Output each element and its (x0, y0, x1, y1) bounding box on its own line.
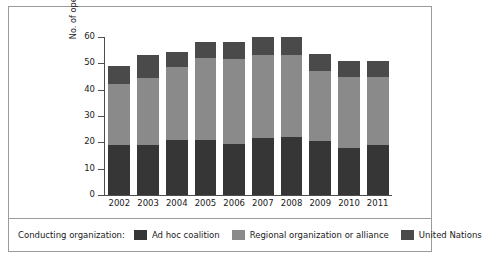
chart-legend: Conducting organization: Ad hoc coalitio… (9, 219, 431, 251)
bar-segment (195, 42, 217, 58)
stacked-bar[interactable] (137, 55, 159, 195)
y-axis-title: No. of operations (69, 0, 78, 59)
y-tick: 40 (98, 90, 104, 91)
plot-area: No. of operations 6050403020100 20022003… (9, 7, 431, 218)
bar-segment (137, 55, 159, 77)
legend-label: Regional organization or alliance (250, 230, 389, 240)
bar-segment (309, 71, 331, 141)
legend-swatch (232, 230, 245, 240)
bar-segment (338, 77, 360, 148)
stacked-bar[interactable] (309, 54, 331, 195)
legend-item[interactable]: Ad hoc coalition (134, 230, 220, 240)
x-tick-label: 2008 (277, 198, 306, 208)
legend-items: Ad hoc coalitionRegional organization or… (134, 230, 486, 240)
bar-slot (363, 37, 392, 195)
x-tick-label: 2003 (134, 198, 163, 208)
bar-slot (105, 37, 134, 195)
y-tick: 10 (98, 169, 104, 170)
x-tick-label: 2004 (162, 198, 191, 208)
bar-segment (223, 59, 245, 143)
stacked-bar[interactable] (195, 42, 217, 195)
bar-segment (281, 37, 303, 55)
y-tick-label: 0 (90, 189, 95, 199)
chart-figure: No. of operations 6050403020100 20022003… (8, 6, 432, 252)
bar-segment (309, 54, 331, 71)
stacked-bar[interactable] (108, 66, 130, 195)
x-tick-label: 2010 (335, 198, 364, 208)
bar-slot (277, 37, 306, 195)
bar-slot (335, 37, 364, 195)
y-tick-label: 20 (84, 136, 95, 146)
stacked-bar[interactable] (281, 37, 303, 195)
bar-segment (367, 145, 389, 195)
legend-title: Conducting organization: (18, 230, 125, 240)
bar-segment (367, 61, 389, 77)
x-tick-label: 2007 (249, 198, 278, 208)
y-tick-mark (98, 195, 104, 196)
x-tick-label: 2002 (105, 198, 134, 208)
stacked-bar[interactable] (252, 37, 274, 195)
x-tick-label: 2009 (306, 198, 335, 208)
bar-segment (281, 55, 303, 137)
bar-slot (162, 37, 191, 195)
bar-segment (166, 67, 188, 139)
bar-segment (223, 144, 245, 195)
legend-item[interactable]: Regional organization or alliance (232, 230, 389, 240)
y-tick-mark (98, 142, 104, 143)
legend-label: United Nations (419, 230, 482, 240)
x-axis-labels: 2002200320042005200620072008200920102011 (105, 198, 392, 208)
bar-segment (281, 137, 303, 195)
y-tick-label: 60 (84, 31, 95, 41)
y-tick-label: 10 (84, 163, 95, 173)
y-tick: 50 (98, 63, 104, 64)
y-tick: 30 (98, 116, 104, 117)
bar-slot (134, 37, 163, 195)
stacked-bar[interactable] (223, 42, 245, 195)
y-tick: 0 (98, 195, 104, 196)
bar-group (105, 37, 392, 195)
bar-segment (338, 148, 360, 195)
y-tick-mark (98, 116, 104, 117)
bar-segment (108, 145, 130, 195)
y-tick: 60 (98, 37, 104, 38)
bar-segment (252, 37, 274, 55)
y-tick: 20 (98, 142, 104, 143)
bar-segment (195, 58, 217, 140)
legend-swatch (134, 230, 147, 240)
bar-segment (108, 84, 130, 145)
y-tick-label: 50 (84, 57, 95, 67)
x-tick-label: 2005 (191, 198, 220, 208)
y-tick-mark (98, 90, 104, 91)
bar-segment (166, 52, 188, 68)
legend-label: Ad hoc coalition (152, 230, 220, 240)
bar-segment (195, 140, 217, 195)
x-axis-line (104, 195, 392, 196)
bar-segment (223, 42, 245, 59)
y-tick-mark (98, 169, 104, 170)
y-tick-mark (98, 37, 104, 38)
bar-segment (166, 140, 188, 195)
bar-slot (306, 37, 335, 195)
bar-slot (191, 37, 220, 195)
stacked-bar[interactable] (166, 52, 188, 196)
x-tick-label: 2006 (220, 198, 249, 208)
legend-item[interactable]: United Nations (401, 230, 482, 240)
bar-slot (249, 37, 278, 195)
bar-segment (108, 66, 130, 84)
bar-segment (367, 77, 389, 145)
x-tick-label: 2011 (363, 198, 392, 208)
bar-segment (137, 78, 159, 145)
y-tick-label: 40 (84, 84, 95, 94)
bar-segment (252, 138, 274, 195)
y-tick-label: 30 (84, 110, 95, 120)
legend-swatch (401, 230, 414, 240)
stacked-bar[interactable] (367, 61, 389, 195)
stacked-bar[interactable] (338, 61, 360, 195)
y-tick-mark (98, 63, 104, 64)
bar-slot (220, 37, 249, 195)
bar-segment (338, 61, 360, 77)
bar-segment (137, 145, 159, 195)
bar-segment (309, 141, 331, 195)
bar-segment (252, 55, 274, 138)
